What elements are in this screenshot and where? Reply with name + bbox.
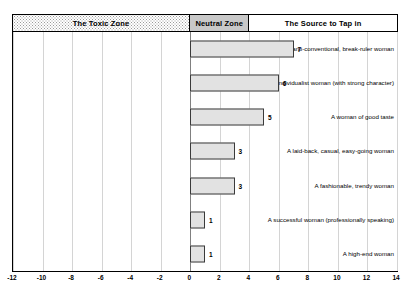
bar-row: A fashionable, trendy woman3	[13, 169, 397, 203]
zone-label-source: The Source to Tap in	[285, 19, 362, 28]
bar	[190, 143, 234, 160]
x-tick-label: 8	[306, 274, 310, 281]
x-tick-label: 6	[276, 274, 280, 281]
x-tick-label: 0	[187, 274, 191, 281]
x-tick-label: -12	[7, 274, 16, 281]
x-tick-label: 4	[246, 274, 250, 281]
x-tick-label: -2	[157, 274, 163, 281]
bar	[190, 177, 234, 194]
x-tick-label: -10	[37, 274, 46, 281]
bar-value-label: 6	[283, 80, 287, 87]
bar-category-label: A successful woman (professionally speak…	[217, 216, 397, 224]
zone-header-source: The Source to Tap in	[249, 15, 397, 31]
bar-value-label: 1	[209, 250, 213, 257]
x-tick-label: 2	[217, 274, 221, 281]
gridline	[397, 32, 398, 271]
bar-category-label: A laid-back, casual, easy-going woman	[217, 147, 397, 155]
bar-row: A woman of good taste5	[13, 100, 397, 134]
zone-header-neutral: Neutral Zone	[190, 15, 249, 31]
x-axis: -12-10-8-6-4-202468101214	[12, 272, 398, 288]
x-tick-label: 14	[392, 274, 399, 281]
zone-label-neutral: Neutral Zone	[195, 19, 243, 28]
x-tick-label: -8	[68, 274, 74, 281]
bar-category-label: A high-end woman	[217, 250, 397, 258]
bar	[190, 245, 205, 262]
zone-header-toxic: The Toxic Zone	[13, 15, 190, 31]
zone-header-band: The Toxic Zone Neutral Zone The Source t…	[13, 15, 397, 32]
plot-area: An anti-conventional, break-ruler woman7…	[13, 32, 397, 271]
bar-value-label: 3	[239, 182, 243, 189]
bar-row: An individualist woman (with strong char…	[13, 66, 397, 100]
bar-value-label: 5	[268, 114, 272, 121]
bar-value-label: 3	[239, 148, 243, 155]
bar	[190, 109, 264, 126]
bar-row: A high-end woman1	[13, 237, 397, 271]
x-tick-label: -4	[127, 274, 133, 281]
bar	[190, 211, 205, 228]
bar-category-label: A fashionable, trendy woman	[217, 182, 397, 190]
zone-label-toxic: The Toxic Zone	[73, 19, 130, 28]
bar-rows: An anti-conventional, break-ruler woman7…	[13, 32, 397, 271]
bar-row: An anti-conventional, break-ruler woman7	[13, 32, 397, 66]
bar-row: A successful woman (professionally speak…	[13, 203, 397, 237]
bar-value-label: 1	[209, 216, 213, 223]
bar	[190, 41, 293, 58]
x-tick-label: 10	[333, 274, 340, 281]
x-tick-label: -6	[98, 274, 104, 281]
bar-value-label: 7	[298, 46, 302, 53]
x-tick-label: 12	[363, 274, 370, 281]
chart-frame: The Toxic Zone Neutral Zone The Source t…	[12, 14, 398, 272]
bar	[190, 75, 279, 92]
bar-row: A laid-back, casual, easy-going woman3	[13, 134, 397, 168]
